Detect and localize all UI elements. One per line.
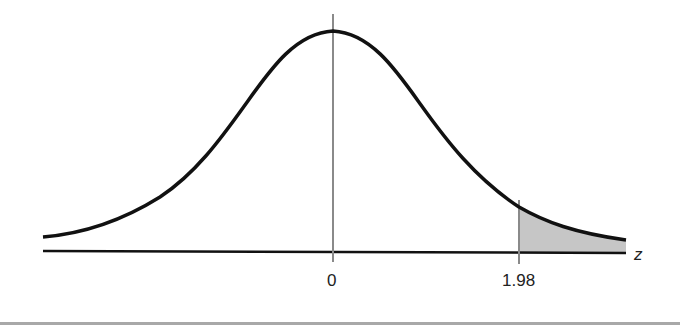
normal-curve-chart — [0, 0, 680, 329]
axis-variable-z: z — [634, 246, 643, 263]
bottom-rule-divider — [0, 322, 680, 325]
tick-label-critical: 1.98 — [502, 272, 535, 289]
tick-label-zero: 0 — [327, 272, 336, 289]
normal-curve — [43, 31, 626, 240]
